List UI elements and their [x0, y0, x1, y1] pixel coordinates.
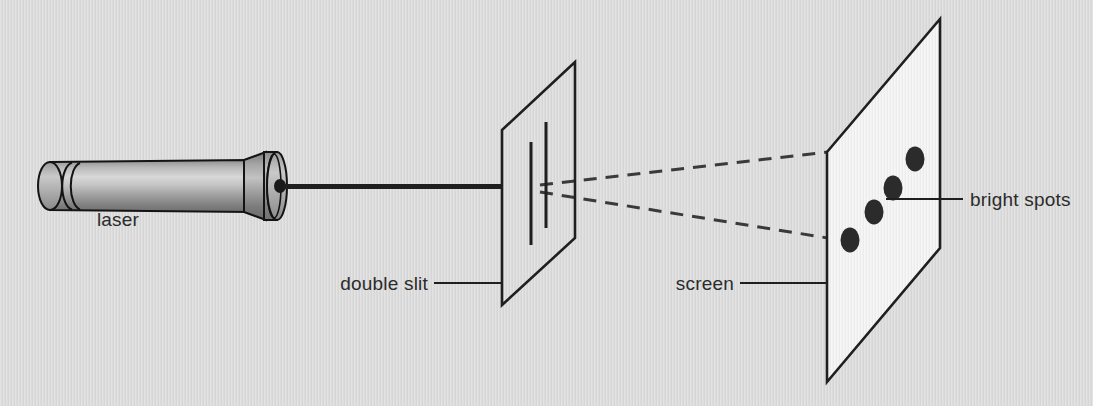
bright-spot — [906, 147, 925, 172]
label-double-slit: double slit — [340, 273, 428, 294]
bright-spot — [865, 200, 884, 225]
double-slit-diagram: laser double slit screen bright spots — [0, 0, 1093, 406]
diagram-canvas: laser double slit screen bright spots — [0, 0, 1093, 406]
label-bright-spots: bright spots — [970, 189, 1071, 210]
laser-device — [38, 152, 287, 220]
bright-spot — [884, 176, 903, 201]
label-screen: screen — [676, 273, 734, 294]
bright-spot — [841, 228, 860, 253]
laser-back-cap — [38, 162, 62, 210]
laser-taper — [244, 152, 266, 220]
laser-barrel — [50, 160, 248, 212]
label-laser: laser — [97, 209, 140, 230]
